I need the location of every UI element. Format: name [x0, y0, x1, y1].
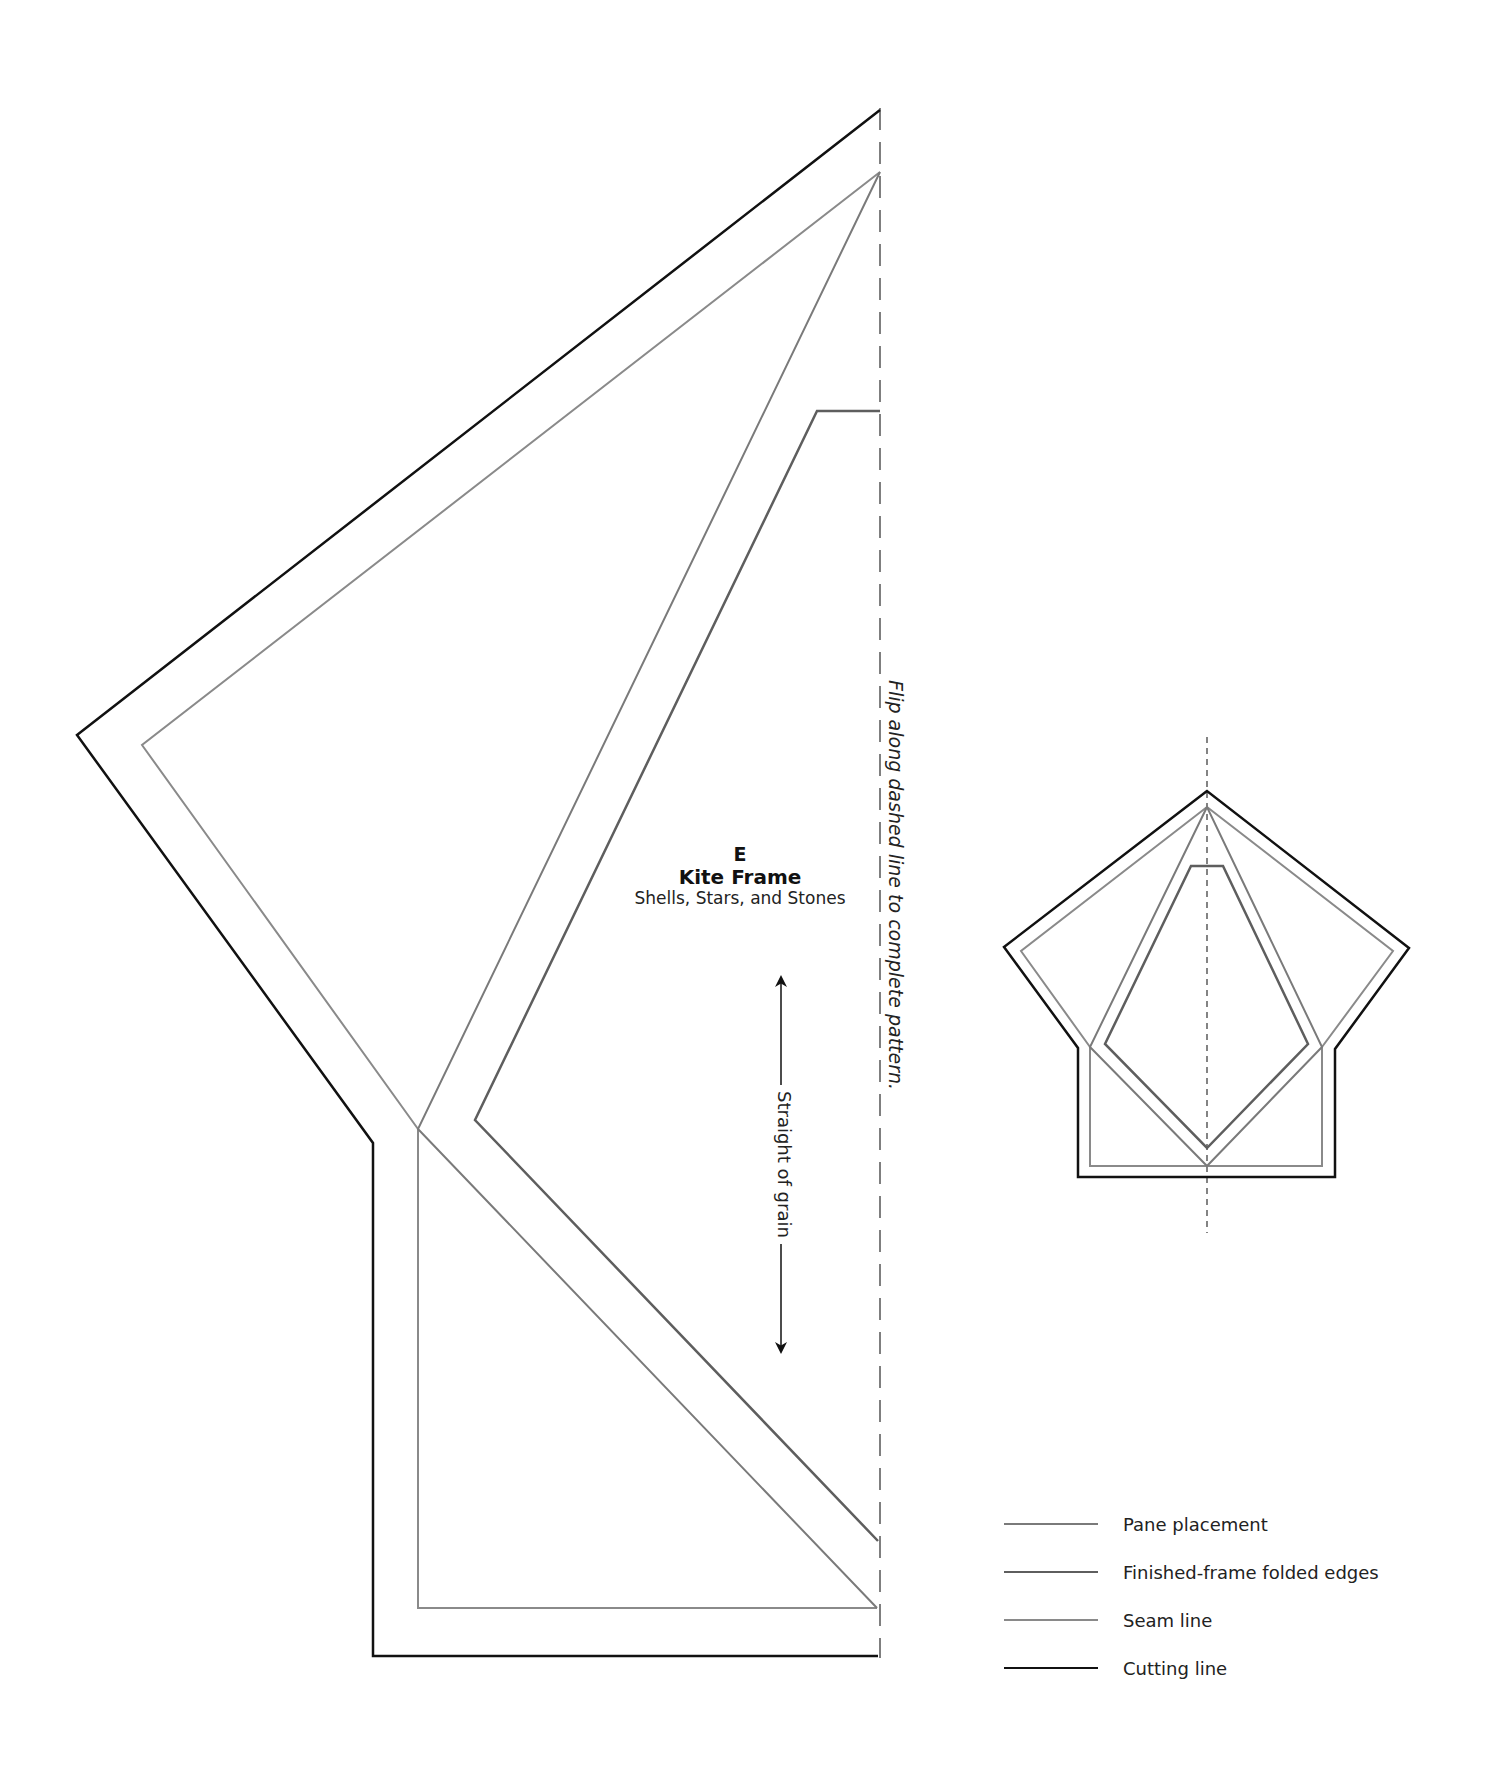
legend-label: Finished-frame folded edges: [1123, 1562, 1379, 1583]
line-legend: Pane placement Finished-frame folded edg…: [1004, 1500, 1379, 1692]
grain-label: Straight of grain: [774, 1085, 795, 1244]
legend-swatch-finished: [1004, 1571, 1098, 1573]
project-name: Shells, Stars, and Stones: [600, 889, 880, 909]
template-name: Kite Frame: [600, 866, 880, 889]
legend-item-seam: Seam line: [1004, 1596, 1379, 1644]
thumbnail-pane-placement: [1090, 807, 1322, 1166]
finished-frame-line: [475, 411, 880, 1541]
thumbnail-diagram: [1004, 737, 1409, 1233]
template-letter: E: [600, 844, 880, 866]
template-title-block: E Kite Frame Shells, Stars, and Stones: [600, 844, 880, 908]
legend-swatch-seam: [1004, 1619, 1098, 1621]
legend-item-cutting: Cutting line: [1004, 1644, 1379, 1692]
flip-instruction: Flip along dashed line to complete patte…: [885, 680, 907, 1090]
legend-item-pane: Pane placement: [1004, 1500, 1379, 1548]
legend-item-finished: Finished-frame folded edges: [1004, 1548, 1379, 1596]
legend-label: Pane placement: [1123, 1514, 1268, 1535]
legend-swatch-pane: [1004, 1523, 1098, 1525]
legend-label: Cutting line: [1123, 1658, 1227, 1679]
legend-swatch-cutting: [1004, 1667, 1098, 1669]
legend-label: Seam line: [1123, 1610, 1212, 1631]
